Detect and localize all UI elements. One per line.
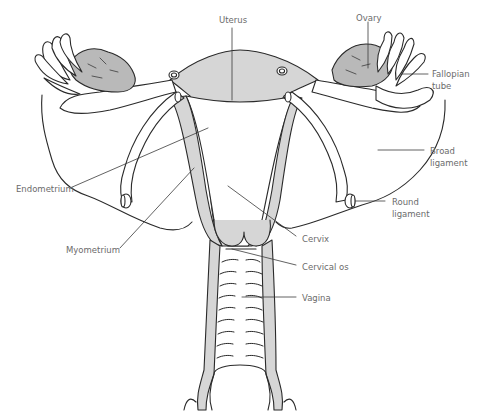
vagina-wall-right — [262, 240, 283, 410]
vagina-wall-left — [197, 240, 220, 410]
label-cervix: Cervix — [302, 233, 329, 245]
label-fallopian-tube-1: Fallopian — [432, 68, 470, 80]
label-round-ligament-2: ligament — [392, 208, 430, 220]
vaginal-rugae — [217, 259, 263, 358]
label-broad-ligament-2: ligament — [430, 157, 468, 169]
label-fallopian-tube-2: tube — [432, 80, 451, 92]
label-endometrium: Endometrium — [16, 183, 74, 195]
broad-ligament-left — [42, 95, 192, 230]
label-round-ligament-1: Round — [392, 196, 419, 208]
uterus-anatomy-diagram: Uterus Ovary Fallopian tube Broad ligame… — [0, 0, 485, 416]
ovary-left — [69, 49, 135, 92]
label-cervical-os: Cervical os — [302, 261, 349, 273]
label-ovary: Ovary — [356, 12, 381, 24]
label-myometrium: Myometrium — [66, 244, 120, 256]
label-vagina: Vagina — [302, 292, 331, 304]
round-ligament-left — [121, 92, 184, 202]
fimbriae-left — [35, 34, 82, 94]
vaginal-opening — [210, 365, 270, 410]
label-uterus: Uterus — [219, 14, 247, 26]
label-broad-ligament-1: Broad — [430, 145, 455, 157]
